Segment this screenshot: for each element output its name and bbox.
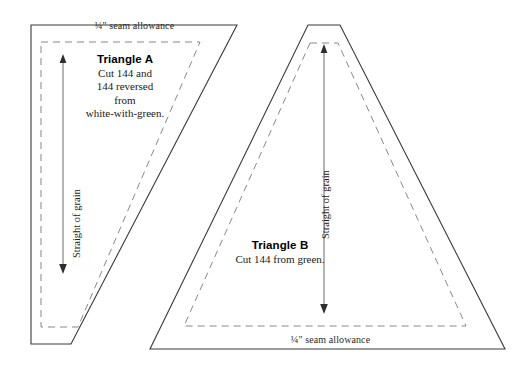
triangle-b-instructions: Cut 144 from green.: [205, 253, 355, 266]
triangle-a-instructions: Cut 144 and 144 reversed from white-with…: [60, 67, 190, 121]
triangle-a-seam-allowance-label: ¼" seam allowance: [47, 20, 222, 32]
triangle-b-title: Triangle B: [215, 239, 345, 253]
triangle-a-instruction-line: white-with-green.: [60, 107, 190, 120]
triangle-a-grain-label: Straight of grain: [71, 189, 82, 258]
triangle-a-instruction-line: Cut 144 and: [60, 67, 190, 80]
template-sheet: ¼" seam allowance Triangle A Cut 144 and…: [0, 0, 529, 368]
triangle-b-grain-label: Straight of grain: [320, 170, 331, 239]
triangle-a-instruction-line: from: [60, 94, 190, 107]
triangle-b-seam-allowance-label: ¼" seam allowance: [248, 334, 413, 346]
triangle-b-instruction-line: Cut 144 from green.: [205, 253, 355, 266]
triangle-a-instruction-line: 144 reversed: [60, 80, 190, 93]
triangle-a-title: Triangle A: [66, 53, 184, 67]
